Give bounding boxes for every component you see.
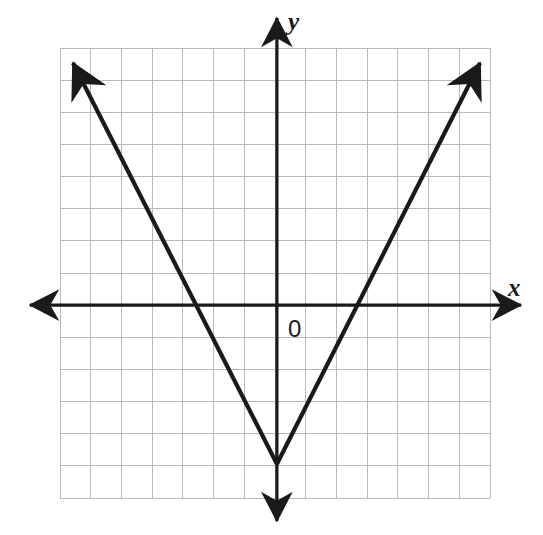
x-axis-label: x: [507, 274, 521, 301]
coordinate-plane-svg: y x 0: [0, 0, 543, 535]
origin-label: 0: [288, 315, 301, 342]
graph-figure: y x 0: [0, 0, 543, 535]
y-axis-label: y: [285, 8, 300, 35]
